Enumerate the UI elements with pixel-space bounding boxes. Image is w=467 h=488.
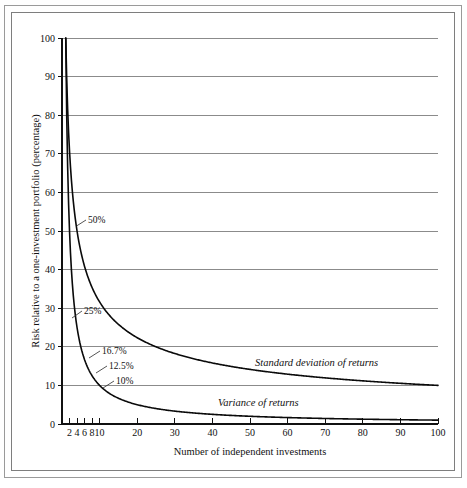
annotation-leader-lines: [72, 220, 114, 388]
x-tick-label-30: 30: [170, 427, 180, 438]
x-tick-label-6: 6: [82, 427, 87, 438]
x-tick-label-70: 70: [320, 427, 330, 438]
leader-25: [72, 311, 82, 318]
x-tick-label-40: 40: [207, 427, 217, 438]
annotation-25-percent: 25%: [84, 306, 102, 316]
x-tick-group: 2468102030405060708090100: [67, 418, 445, 438]
x-tick-label-10: 10: [95, 427, 105, 438]
x-tick-label-80: 80: [358, 427, 368, 438]
y-tick-label-30: 30: [45, 303, 55, 314]
gridlines-group: [62, 38, 438, 385]
x-tick-label-50: 50: [245, 427, 255, 438]
annotation-12-5-percent: 12.5%: [109, 361, 134, 371]
y-tick-label-50: 50: [45, 226, 55, 237]
standard-deviation-curve: [66, 38, 438, 385]
annotation-16-7-percent: 16.7%: [102, 346, 127, 356]
x-tick-label-4: 4: [75, 427, 80, 438]
y-tick-label-20: 20: [45, 341, 55, 352]
series-label-standard-deviation: Standard deviation of returns: [255, 357, 378, 368]
leader-10: [103, 381, 114, 388]
risk-diversification-chart: 0102030405060708090100 24681020304050607…: [0, 0, 467, 488]
chart-plot-area: 0102030405060708090100 24681020304050607…: [0, 0, 467, 488]
y-tick-label-70: 70: [45, 148, 55, 159]
leader-125: [96, 366, 107, 373]
y-tick-label-60: 60: [45, 187, 55, 198]
y-tick-label-90: 90: [45, 71, 55, 82]
y-tick-label-0: 0: [50, 419, 55, 430]
y-axis-title: Risk relative to a one-investment portfo…: [30, 114, 42, 348]
annotation-50-percent: 50%: [88, 215, 106, 225]
x-tick-label-60: 60: [283, 427, 293, 438]
x-tick-label-90: 90: [395, 427, 405, 438]
y-tick-label-100: 100: [40, 33, 55, 44]
y-tick-label-40: 40: [45, 264, 55, 275]
y-tick-label-80: 80: [45, 110, 55, 121]
x-tick-label-100: 100: [431, 427, 446, 438]
x-axis-title: Number of independent investments: [174, 446, 327, 457]
y-tick-labels-group: 0102030405060708090100: [40, 33, 62, 430]
annotation-10-percent: 10%: [116, 376, 134, 386]
series-label-variance: Variance of returns: [218, 397, 299, 408]
x-tick-label-20: 20: [132, 427, 142, 438]
y-tick-label-10: 10: [45, 380, 55, 391]
leader-50: [77, 220, 87, 226]
leader-167: [89, 351, 100, 358]
x-tick-label-2: 2: [67, 427, 72, 438]
